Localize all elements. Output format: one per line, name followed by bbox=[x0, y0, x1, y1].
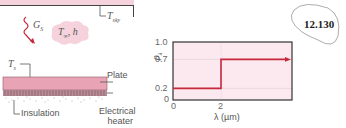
solar-irradiation-label: GS bbox=[33, 19, 43, 32]
sky-band bbox=[0, 0, 134, 5]
electrical-heater bbox=[3, 90, 107, 96]
plate-label: Plate bbox=[107, 70, 128, 80]
y-tick-0: 0 bbox=[164, 94, 169, 104]
sky-leader-line bbox=[100, 6, 106, 16]
sky-temperature-label: Tsky bbox=[107, 10, 120, 23]
insulation-leader-line bbox=[14, 100, 20, 114]
x-tick-2: 2 bbox=[218, 101, 223, 111]
solar-ray-icon bbox=[24, 17, 33, 43]
x-axis-label: λ (µm) bbox=[214, 112, 240, 122]
y-tick-0.2: 0.2 bbox=[155, 83, 168, 93]
plot-area bbox=[173, 42, 292, 100]
x-tick-0: 0 bbox=[171, 101, 176, 111]
y-tick-1.0: 1.0 bbox=[155, 37, 168, 47]
surface-leader-line bbox=[20, 64, 30, 77]
y-axis-label: ρλ bbox=[150, 53, 163, 60]
heater-label: Electrical heater bbox=[99, 106, 136, 126]
problem-number: 12.130 bbox=[304, 18, 334, 30]
insulation bbox=[6, 97, 103, 103]
surface-temperature-label: Ts bbox=[8, 58, 16, 71]
insulation-label: Insulation bbox=[21, 108, 60, 118]
plate bbox=[3, 77, 107, 90]
air-conditions-label: T∞, h bbox=[58, 26, 78, 39]
